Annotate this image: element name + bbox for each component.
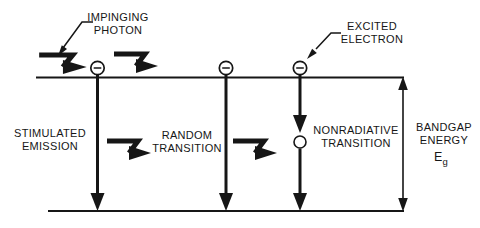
bandgap-symbol-letter: E: [434, 150, 443, 164]
bandgap-down-arrowhead: [398, 198, 408, 212]
emitted-photon-arrow-icon: [114, 54, 158, 73]
bandgap-symbol-subscript: g: [443, 156, 449, 167]
excited-electron-icon: [293, 61, 306, 74]
energy-band-diagram: IMPINGING PHOTON EXCITED ELECTRON STIMUL…: [0, 0, 480, 228]
hole-icon: [294, 136, 306, 148]
excited-electron-leader-arrowhead: [307, 49, 317, 59]
excited-electron-label: EXCITED ELECTRON: [341, 20, 403, 45]
stimulated-emission-arrowhead: [91, 193, 105, 211]
nonradiative-transition-label: NONRADIATIVE TRANSITION: [313, 124, 398, 149]
random-transition-label: RANDOM TRANSITION: [152, 129, 222, 154]
bandgap-symbol: Eg: [434, 150, 448, 167]
impinging-photon-label: IMPINGING PHOTON: [87, 11, 148, 36]
random-photon-arrow-icon: [233, 141, 277, 160]
bandgap-up-arrowhead: [398, 77, 408, 91]
stimulated-emission-label: STIMULATED EMISSION: [14, 127, 86, 152]
electron-icon: [219, 61, 232, 74]
impinging-photon-arrow-icon: [39, 55, 87, 74]
nonradiative-upper-arrowhead: [293, 115, 307, 133]
excited-electron-leader-line: [316, 33, 341, 49]
diagram-canvas: [0, 0, 480, 228]
random-transition-arrowhead: [219, 193, 233, 211]
nonradiative-lower-arrowhead: [293, 193, 307, 211]
stimulating-photon-arrow-icon: [107, 141, 151, 160]
electron-icon: [91, 61, 104, 74]
bandgap-energy-label: BANDGAP ENERGY: [416, 121, 472, 146]
